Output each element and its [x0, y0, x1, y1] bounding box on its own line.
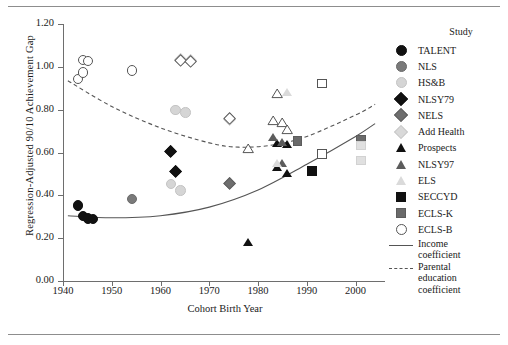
- data-point-hs-b: [180, 107, 191, 118]
- diamond-marker-icon: [388, 110, 414, 120]
- circle-marker-icon: [388, 61, 414, 72]
- diamond-marker-icon: [388, 127, 414, 137]
- solid-line-icon: [388, 238, 414, 246]
- dashed-line-icon: [388, 261, 414, 269]
- legend-label: HS&B: [414, 77, 445, 88]
- legend-item-income[interactable]: Incomecoefficient: [388, 238, 506, 261]
- data-point-prospects: [243, 238, 253, 246]
- legend-item-ecls-b[interactable]: ECLS-B: [388, 221, 506, 237]
- data-point-open-squares: [317, 149, 327, 159]
- scatter-chart-figure: 0.000.200.400.600.801.001.20 19401950196…: [0, 0, 508, 345]
- legend-item-prospects[interactable]: Prospects: [388, 140, 506, 156]
- legend-items: TALENTNLSHS&BNLSY79NELSAdd HealthProspec…: [388, 42, 506, 295]
- diamond-marker-icon: [388, 94, 414, 104]
- data-point-ecls-b: [78, 67, 89, 78]
- data-point-light-squares: [356, 141, 366, 151]
- triangle-marker-icon: [388, 143, 414, 152]
- circle-marker-icon: [388, 77, 414, 88]
- data-point-seccyd: [307, 166, 317, 176]
- data-point-light-squares: [356, 156, 366, 166]
- legend-item-hs-b[interactable]: HS&B: [388, 75, 506, 91]
- data-point-ecls-k: [293, 136, 303, 146]
- circle-marker-icon: [388, 224, 414, 235]
- data-point-prospects: [282, 169, 292, 177]
- legend-label: SECCYD: [414, 191, 457, 202]
- legend: Study TALENTNLSHS&BNLSY79NELSAdd HealthP…: [388, 26, 506, 295]
- circle-marker-icon: [388, 45, 414, 56]
- legend-item-ecls-k[interactable]: ECLS-K: [388, 205, 506, 221]
- data-point-nlsy97: [268, 133, 278, 141]
- triangle-marker-icon: [388, 160, 414, 169]
- data-point-hs-b: [175, 185, 186, 196]
- legend-label: Prospects: [414, 142, 456, 153]
- legend-label: Add Health: [414, 126, 464, 137]
- triangle-marker-icon: [388, 176, 414, 185]
- square-marker-icon: [388, 208, 414, 218]
- legend-label: NELS: [414, 110, 443, 121]
- legend-item-nels[interactable]: NELS: [388, 107, 506, 123]
- data-point-open-squares: [317, 79, 327, 89]
- legend-item-seccyd[interactable]: SECCYD: [388, 189, 506, 205]
- legend-label: Parentaleducationcoefficient: [414, 261, 461, 296]
- trend-line-parental-education: [68, 81, 375, 147]
- legend-item-parental[interactable]: Parentaleducationcoefficient: [388, 261, 506, 296]
- data-point-els: [272, 159, 282, 167]
- legend-label: NLSY97: [414, 159, 454, 170]
- data-point-nlsy97: [277, 138, 287, 146]
- legend-label: NLSY79: [414, 94, 454, 105]
- legend-item-talent[interactable]: TALENT: [388, 42, 506, 58]
- square-marker-icon: [388, 192, 414, 202]
- legend-label: NLS: [414, 61, 437, 72]
- data-point-talent: [88, 214, 99, 225]
- legend-label: ECLS-B: [414, 224, 452, 235]
- legend-item-els[interactable]: ELS: [388, 172, 506, 188]
- legend-title: Study: [416, 26, 506, 37]
- legend-item-nlsy79[interactable]: NLSY79: [388, 91, 506, 107]
- legend-item-add-health[interactable]: Add Health: [388, 123, 506, 139]
- data-point-ecls-b: [127, 65, 138, 76]
- legend-label: ELS: [414, 175, 436, 186]
- trend-line-income: [68, 124, 375, 218]
- legend-item-nls[interactable]: NLS: [388, 58, 506, 74]
- legend-label: Incomecoefficient: [414, 238, 461, 261]
- legend-label: ECLS-K: [414, 208, 453, 219]
- data-point-talent: [73, 200, 84, 211]
- legend-item-nlsy97[interactable]: NLSY97: [388, 156, 506, 172]
- legend-label: TALENT: [414, 45, 456, 56]
